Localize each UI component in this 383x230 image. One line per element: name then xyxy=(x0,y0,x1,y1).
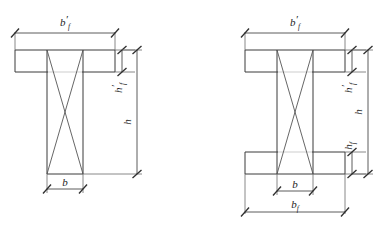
t-dim-b: b xyxy=(43,174,87,194)
t-dim-hf-prime: h′f xyxy=(109,46,135,93)
i-dim-h: h xyxy=(352,46,373,178)
t-label-bf-prime: b′f xyxy=(60,13,71,32)
t-flange-outline xyxy=(15,50,115,72)
i-section-group: b′f h′f h xyxy=(241,13,373,217)
i-top-flange-outline xyxy=(245,50,345,72)
t-section-group: b′f h′f h xyxy=(11,13,142,194)
i-dim-bf-prime: b′f xyxy=(241,13,349,50)
i-bottom-flange-outline xyxy=(245,152,345,174)
t-label-hf-prime: h′f xyxy=(109,82,128,93)
t-dim-bf-prime: b′f xyxy=(11,13,119,50)
i-label-bf-prime: b′f xyxy=(290,13,301,32)
i-dim-b: b xyxy=(273,174,317,196)
beam-section-diagram: b′f h′f h xyxy=(0,0,383,230)
t-label-h: h xyxy=(121,119,133,125)
i-dim-hf: hf xyxy=(342,141,366,178)
figure-root: b′f h′f h xyxy=(0,0,383,230)
t-label-b: b xyxy=(62,176,68,188)
i-label-h: h xyxy=(352,109,364,115)
i-label-bf: bf xyxy=(291,198,300,213)
t-dim-h: h xyxy=(83,46,142,178)
i-label-hf-prime: h′f xyxy=(339,82,358,93)
i-label-b: b xyxy=(292,178,298,190)
i-label-hf: hf xyxy=(342,141,357,150)
i-dim-hf-prime: h′f xyxy=(339,46,366,93)
